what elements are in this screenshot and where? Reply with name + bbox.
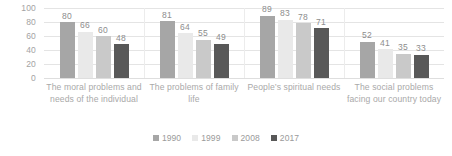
legend-label: 2017 — [280, 134, 299, 143]
bar-group: 80666048 — [44, 8, 144, 78]
bar-1999[interactable] — [78, 32, 93, 78]
bar-value-label: 49 — [216, 33, 226, 42]
bar-group-bars: 80666048 — [44, 8, 144, 78]
y-tick-label-0: 0 — [31, 74, 36, 83]
legend-label: 1999 — [201, 134, 220, 143]
bar-value-label: 55 — [198, 29, 208, 38]
bar-slot: 55 — [196, 8, 211, 78]
bar-slot: 41 — [378, 8, 393, 78]
bar-value-label: 64 — [180, 23, 190, 32]
bar-1990[interactable] — [260, 16, 275, 78]
plot-area: 80666048816455498983787152413533 — [44, 8, 444, 78]
bar-value-label: 35 — [398, 43, 408, 52]
legend-label: 2008 — [241, 134, 260, 143]
bar-slot: 35 — [396, 8, 411, 78]
legend-label: 1990 — [162, 134, 181, 143]
bar-value-label: 33 — [416, 44, 426, 53]
bar-1990[interactable] — [60, 22, 75, 78]
bar-value-label: 48 — [116, 34, 126, 43]
bar-value-label: 41 — [380, 39, 390, 48]
legend-item[interactable]: 2017 — [271, 134, 299, 143]
legend-item[interactable]: 1990 — [153, 134, 181, 143]
bar-slot: 81 — [160, 8, 175, 78]
bar-slot: 80 — [60, 8, 75, 78]
bar-2008[interactable] — [296, 23, 311, 78]
bar-slot: 64 — [178, 8, 193, 78]
chart-legend: 1990199920082017 — [0, 134, 452, 143]
gridline-0 — [44, 78, 444, 79]
bar-value-label: 81 — [162, 11, 172, 20]
bar-2008[interactable] — [196, 40, 211, 79]
bar-slot: 48 — [114, 8, 129, 78]
bar-group: 81645549 — [144, 8, 244, 78]
bar-slot: 33 — [414, 8, 429, 78]
legend-swatch-icon — [232, 135, 238, 141]
bar-value-label: 80 — [62, 12, 72, 21]
y-tick-label-60: 60 — [26, 32, 36, 41]
bar-1990[interactable] — [360, 42, 375, 78]
bar-value-label: 66 — [80, 21, 90, 30]
y-tick-label-40: 40 — [26, 46, 36, 55]
legend-swatch-icon — [271, 135, 277, 141]
bar-group-bars: 81645549 — [144, 8, 244, 78]
bar-group-bars: 52413533 — [344, 8, 444, 78]
bar-slot: 66 — [78, 8, 93, 78]
legend-item[interactable]: 1999 — [192, 134, 220, 143]
bar-chart: 100806040200 806660488164554989837871524… — [0, 0, 452, 156]
bar-slot: 60 — [96, 8, 111, 78]
bar-2017[interactable] — [214, 44, 229, 78]
bar-slot: 52 — [360, 8, 375, 78]
legend-item[interactable]: 2008 — [232, 134, 260, 143]
category-label: People’s spiritual needs — [244, 82, 344, 94]
y-tick-label-20: 20 — [26, 60, 36, 69]
bar-1990[interactable] — [160, 21, 175, 78]
bar-1999[interactable] — [278, 20, 293, 78]
bar-2017[interactable] — [414, 55, 429, 78]
bar-2008[interactable] — [396, 54, 411, 79]
y-tick-label-80: 80 — [26, 18, 36, 27]
bar-group: 89837871 — [244, 8, 344, 78]
bar-2008[interactable] — [96, 36, 111, 78]
bar-value-label: 78 — [298, 13, 308, 22]
bar-value-label: 71 — [316, 18, 326, 27]
bar-slot: 83 — [278, 8, 293, 78]
y-tick-label-100: 100 — [21, 4, 36, 13]
legend-swatch-icon — [153, 135, 159, 141]
bar-value-label: 60 — [98, 26, 108, 35]
category-label: The moral problems and needs of the indi… — [44, 82, 144, 105]
bar-slot: 78 — [296, 8, 311, 78]
legend-swatch-icon — [192, 135, 198, 141]
bar-value-label: 83 — [280, 9, 290, 18]
category-label: The social problems facing our country t… — [344, 82, 444, 105]
bar-slot: 71 — [314, 8, 329, 78]
bar-2017[interactable] — [314, 28, 329, 78]
bar-1999[interactable] — [178, 33, 193, 78]
bar-slot: 89 — [260, 8, 275, 78]
bar-value-label: 52 — [362, 31, 372, 40]
bar-slot: 49 — [214, 8, 229, 78]
bar-group-bars: 89837871 — [244, 8, 344, 78]
bar-value-label: 89 — [262, 5, 272, 14]
bar-2017[interactable] — [114, 44, 129, 78]
y-axis: 100806040200 — [0, 8, 40, 78]
category-axis-labels: The moral problems and needs of the indi… — [44, 82, 444, 126]
bar-1999[interactable] — [378, 49, 393, 78]
category-label: The problems of family life — [144, 82, 244, 105]
bar-group: 52413533 — [344, 8, 444, 78]
